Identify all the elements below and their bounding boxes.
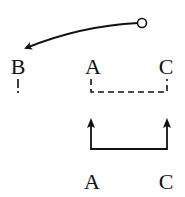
origin-circle-icon [138,19,147,28]
label-b-top: B [11,54,26,79]
label-c-top: C [159,54,174,79]
curved-arrow [26,23,138,48]
label-a-bottom: A [84,169,100,194]
label-a-top: A [85,54,101,79]
diagram-svg: B A C A C [0,0,185,197]
solid-bracket [91,124,167,149]
dashed-bracket [91,79,167,92]
label-c-bottom: C [159,169,174,194]
diagram-canvas: B A C A C [0,0,185,197]
